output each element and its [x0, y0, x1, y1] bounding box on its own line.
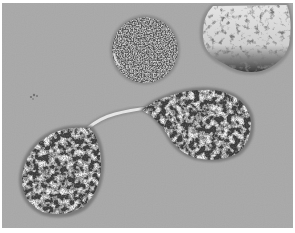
micrograph-svg: [2, 3, 293, 228]
round-cell: [110, 15, 180, 85]
micrograph: [2, 3, 293, 228]
